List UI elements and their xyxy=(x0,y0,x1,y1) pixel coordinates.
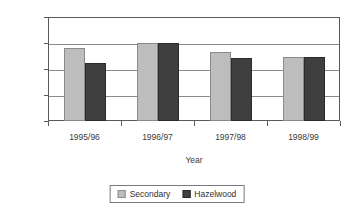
x-tick-label: 1997/98 xyxy=(196,132,266,142)
legend-swatch-icon xyxy=(118,190,126,198)
legend-label: Hazelwood xyxy=(194,189,236,199)
legend-item-secondary[interactable]: Secondary xyxy=(118,189,171,199)
gridline xyxy=(49,96,339,97)
x-tick-label: 1995/96 xyxy=(50,132,120,142)
plot-area xyxy=(48,17,340,121)
legend-label: Secondary xyxy=(130,189,171,199)
x-tick-label: 1996/97 xyxy=(123,132,193,142)
gridline xyxy=(49,70,339,71)
chart-legend: SecondaryHazelwood xyxy=(110,185,245,203)
x-tick-mark xyxy=(48,121,49,126)
legend-swatch-icon xyxy=(182,190,190,198)
x-tick-mark xyxy=(121,121,122,126)
x-tick-label: 1998/99 xyxy=(269,132,339,142)
x-axis-title: Year xyxy=(48,155,340,165)
legend-item-hazelwood[interactable]: Hazelwood xyxy=(182,189,236,199)
x-tick-mark xyxy=(194,121,195,126)
gridline xyxy=(49,44,339,45)
bar-chart: Percentage 2025303540 1995/961996/971997… xyxy=(0,0,354,220)
x-tick-mark xyxy=(340,121,341,126)
x-tick-mark xyxy=(267,121,268,126)
